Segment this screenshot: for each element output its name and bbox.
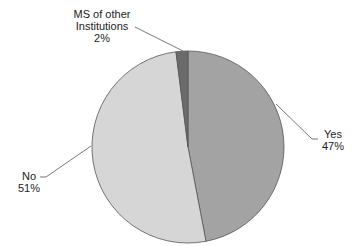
pie-chart: [0, 0, 359, 246]
leader-line-no: [40, 146, 91, 177]
slice-label-ms: MS of other Institutions 2%: [62, 8, 142, 44]
slice-label-yes-name: Yes: [316, 128, 350, 140]
slice-yes: [188, 51, 284, 241]
slice-label-ms-value: 2%: [62, 32, 142, 44]
slice-label-no: No 51%: [12, 170, 46, 194]
slice-label-ms-name2: Institutions: [62, 20, 142, 32]
slice-label-no-name: No: [12, 170, 46, 182]
slice-label-yes-value: 47%: [316, 140, 350, 152]
slice-label-ms-name1: MS of other: [62, 8, 142, 20]
slice-label-yes: Yes 47%: [316, 128, 350, 152]
leader-line-ms: [135, 27, 183, 51]
slice-label-no-value: 51%: [12, 182, 46, 194]
